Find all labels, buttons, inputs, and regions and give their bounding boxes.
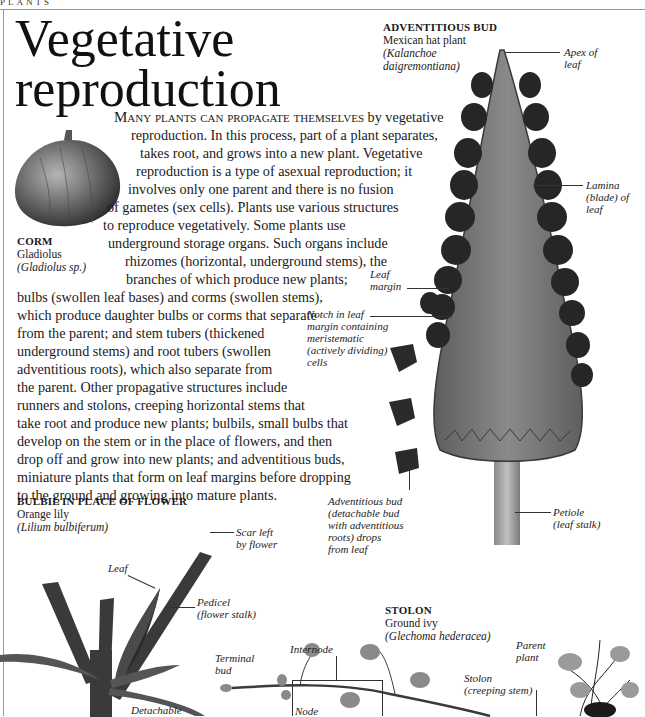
adventitious-bud-heading: ADVENTITIOUS BUD — [383, 21, 497, 34]
kalanchoe-leaf-image — [400, 45, 600, 545]
internode-bracket-right — [382, 680, 383, 716]
body-line: takes root, and grows into a new plant. … — [140, 144, 423, 162]
body-line: rhizomes (horizontal, underground stems)… — [125, 252, 387, 270]
label-leaf-margin: Leaf margin — [370, 268, 401, 292]
detached-bud-image — [385, 340, 425, 480]
label-lamina: Lamina (blade) of leaf — [586, 179, 629, 215]
label-pedicel: Pedicel (flower stalk) — [197, 596, 256, 620]
body-line: underground storage organs. Such organs … — [108, 234, 388, 252]
body-line: which produce daughter bulbs or corms th… — [17, 306, 317, 324]
apex-leader-line — [505, 52, 560, 53]
body-line: to reproduce vegetatively. Some plants u… — [103, 216, 346, 234]
internode-leader-line — [336, 656, 337, 680]
body-line: drop off and grow into new plants; and a… — [17, 450, 345, 468]
stolon-common-name: Ground ivy — [385, 617, 491, 630]
label-detachable: Detachable — [131, 704, 182, 716]
label-petiole: Petiole (leaf stalk) — [553, 506, 600, 530]
body-line: reproduction. In this process, part of a… — [131, 126, 438, 144]
internode-bracket-top — [292, 680, 383, 681]
stolon-leader-line — [536, 690, 537, 716]
leaf-margin-leader-line — [407, 288, 449, 289]
corm-heading: CORM — [17, 235, 86, 248]
page-title: Vegetative reproduction — [15, 14, 281, 114]
corm-caption: CORM Gladiolus (Gladiolus sp.) — [17, 235, 86, 274]
body-line: reproduction is a type of asexual reprod… — [136, 162, 412, 180]
label-notch: Notch in leaf margin containing meristem… — [307, 308, 388, 368]
body-line: of gametes (sex cells). Plants use vario… — [107, 198, 399, 216]
bud-drop-leader-line — [409, 470, 410, 490]
body-line: bulbs (swollen leaf bases) and corms (sw… — [17, 288, 323, 306]
lamina-leader-line — [533, 185, 583, 186]
label-terminal-bud: Terminal bud — [215, 652, 254, 676]
bulbil-common-name: Orange lily — [17, 508, 187, 521]
body-line: take root and produce new plants; bulbil… — [17, 414, 348, 432]
body-line: underground stems) and root tubers (swol… — [17, 342, 271, 360]
bulbil-heading: BULBIL IN PLACE OF FLOWER — [17, 495, 187, 508]
petiole-leader-line — [515, 512, 551, 513]
notch-leader-line — [370, 316, 452, 317]
ground-ivy-image — [220, 640, 645, 716]
corm-common-name: Gladiolus — [17, 248, 86, 261]
label-internode: Internode — [290, 643, 333, 655]
stolon-heading: STOLON — [385, 604, 491, 617]
body-line: the parent. Other propagative structures… — [17, 378, 287, 396]
body-line: branches of which produce new plants; — [126, 270, 348, 288]
label-bud-drop: Adventitious bud (detachable bud with ad… — [328, 495, 403, 555]
bulbil-caption: BULBIL IN PLACE OF FLOWER Orange lily (L… — [17, 495, 187, 534]
body-line: from the parent; and stem tubers (thicke… — [17, 324, 264, 342]
body-line: involves only one parent and there is no… — [128, 180, 394, 198]
label-apex: Apex of leaf — [564, 46, 597, 70]
body-line: adventitious roots), which also separate… — [17, 360, 272, 378]
label-scar: Scar left by flower — [236, 526, 277, 550]
internode-bracket-left — [292, 680, 293, 716]
label-parent-plant: Parent plant — [516, 639, 546, 663]
body-line: miniature plants that form on leaf margi… — [17, 468, 351, 486]
pedicel-leader-line — [165, 607, 195, 608]
body-line: runners and stolons, creeping horizontal… — [17, 396, 305, 414]
label-node: Node — [295, 705, 318, 717]
body-lead: Many plants can propagate themselves — [114, 109, 364, 125]
corm-latin-name: (Gladiolus sp.) — [17, 261, 86, 274]
label-leaf: Leaf — [108, 562, 128, 574]
stolon-caption: STOLON Ground ivy (Glechoma hederacea) — [385, 604, 491, 643]
section-tag: PLANTS — [0, 0, 52, 7]
label-stolon: Stolon (creeping stem) — [464, 672, 532, 696]
title-line-1: Vegetative — [15, 10, 234, 67]
body-line: develop on the stem or in the place of f… — [17, 432, 332, 450]
scar-leader-line — [210, 532, 234, 533]
